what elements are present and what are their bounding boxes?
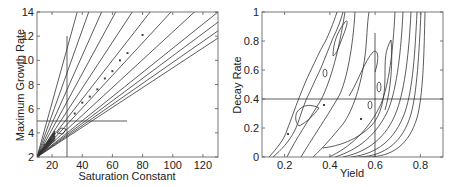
- right-y-tick-label: 0.6: [244, 64, 259, 76]
- left-y-tick-label: 4: [28, 127, 34, 139]
- right-y-tick-label: 0.2: [244, 122, 259, 134]
- left-y-axis-label: Maximum Growth Rate: [14, 29, 26, 141]
- right-x-tick-label: 0.6: [367, 159, 382, 171]
- right-x-ticks: 0.20.40.60.8: [277, 12, 428, 171]
- right-y-tick-label: 0.8: [244, 35, 259, 47]
- left-y-tick-label: 2: [28, 151, 34, 163]
- left-x-axis-label: Saturation Constant: [78, 170, 175, 182]
- right-contour-plot: 0.20.40.60.8 00.20.40.60.81 Yield Decay …: [229, 0, 459, 187]
- left-x-tick-label: 120: [194, 159, 212, 171]
- left-y-tick-label: 8: [28, 79, 34, 91]
- right-x-axis-label: Yield: [340, 167, 364, 179]
- left-contour-lines: [37, 0, 230, 157]
- right-x-tick-label: 0.8: [413, 159, 428, 171]
- right-y-tick-label: 1: [253, 6, 259, 18]
- right-y-tick-label: 0: [253, 151, 259, 163]
- left-chart-panel: 20406080100120 2468101214 Saturation Con…: [0, 0, 230, 187]
- right-contour-lines: [269, 12, 425, 157]
- right-chart-panel: 0.20.40.60.8 00.20.40.60.81 Yield Decay …: [229, 0, 459, 187]
- right-y-tick-label: 0.4: [244, 93, 259, 105]
- left-y-tick-label: 14: [22, 6, 34, 18]
- right-x-tick-label: 0.2: [277, 159, 292, 171]
- right-x-tick-label: 0.4: [322, 159, 337, 171]
- left-x-tick-label: 20: [46, 159, 58, 171]
- left-contour-plot: 20406080100120 2468101214 Saturation Con…: [0, 0, 230, 187]
- left-y-tick-label: 6: [28, 103, 34, 115]
- right-y-axis-label: Decay Rate: [231, 56, 243, 113]
